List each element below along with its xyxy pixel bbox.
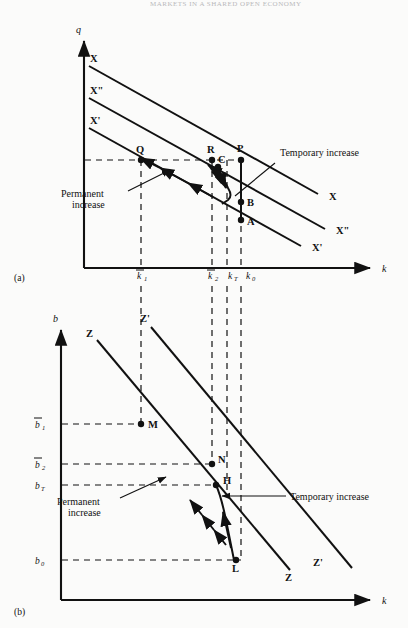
economics-phase-diagram: q k X X" X' X X" X' Q R C P B A Temporar… bbox=[0, 0, 408, 628]
panel-b-curve-Z2 bbox=[151, 327, 352, 568]
panel-b-tick-bT: b T bbox=[35, 481, 45, 492]
panel-b-tick-b0-sub: 0 bbox=[41, 560, 45, 567]
panel-b-y-axis-label: b bbox=[53, 313, 58, 324]
panel-a-curve-label-right-X1: X' bbox=[312, 242, 323, 253]
panel-b-label: (b) bbox=[14, 607, 25, 618]
panel-a-tick-k2-base: k bbox=[208, 271, 213, 281]
panel-a-annotation-permanent-line1: Permanent bbox=[61, 188, 104, 199]
panel-a-arrow-low-1 bbox=[188, 183, 213, 197]
panel-a-tick-k0-base: k bbox=[246, 271, 251, 281]
panel-b-tick-b2: b 2 bbox=[34, 458, 46, 471]
panel-a-leader-permanent bbox=[128, 170, 170, 191]
panel-b-annotation-temporary: Temporary increase bbox=[290, 491, 370, 502]
panel-a-label-R: R bbox=[207, 144, 215, 155]
panel-a-point-A bbox=[238, 217, 244, 223]
panel-a-curve-X2 bbox=[89, 98, 325, 229]
panel-b-curve-label-left-Z2: Z' bbox=[140, 313, 150, 324]
panel-a-label: (a) bbox=[14, 273, 25, 284]
panel-b-leader-permanent bbox=[120, 477, 166, 498]
panel-a-tick-k1-sub: 1 bbox=[144, 275, 147, 282]
panel-b-label-N: N bbox=[218, 454, 226, 465]
panel-a-tick-kT: k T bbox=[228, 271, 238, 282]
panel-b-tick-b1-base: b bbox=[35, 420, 40, 430]
panel-b-curve-label-right-Z2: Z' bbox=[313, 557, 323, 568]
panel-b-arrow-3 bbox=[190, 500, 202, 515]
panel-a-curve-label-right-X2: X" bbox=[336, 225, 349, 236]
panel-b-arrow-1 bbox=[214, 530, 226, 545]
panel-b-point-N bbox=[209, 461, 215, 467]
panel-a-label-P: P bbox=[237, 143, 244, 154]
panel-a-tick-k1-base: k bbox=[137, 271, 142, 281]
panel-b-tick-b1-sub: 1 bbox=[42, 424, 45, 431]
panel-a-curve-label-right-X: X bbox=[329, 191, 337, 202]
panel-b-x-axis-label: k bbox=[382, 595, 387, 606]
panel-a-point-B bbox=[238, 199, 244, 205]
panel-b-curve-Z bbox=[97, 340, 290, 570]
panel-a-label-C: C bbox=[218, 154, 226, 165]
panel-a-label-B: B bbox=[247, 197, 254, 208]
panel-a-label-A: A bbox=[247, 216, 255, 227]
panel-a-tick-k2-sub: 2 bbox=[215, 275, 219, 282]
panel-a-y-axis-label: q bbox=[76, 24, 81, 35]
panel-a-point-Q bbox=[138, 157, 144, 163]
panel-b-label-H: H bbox=[223, 475, 231, 486]
panel-a-point-P bbox=[238, 157, 244, 163]
panel-a-x-axis-label: k bbox=[382, 263, 387, 274]
panel-b-point-M bbox=[138, 421, 144, 427]
panel-b-tick-b2-sub: 2 bbox=[42, 464, 46, 471]
panel-a-arrow-low-2 bbox=[160, 168, 188, 183]
panel-a-tick-kT-sub: T bbox=[234, 275, 238, 282]
panel-b-tick-b0: b 0 bbox=[35, 556, 45, 567]
panel-a-label-Q: Q bbox=[136, 144, 144, 155]
panel-a-tick-k1: k 1 bbox=[136, 270, 147, 282]
panel-b-label-L: L bbox=[232, 563, 239, 574]
panel-b-point-H bbox=[213, 482, 219, 488]
panel-a-group: q k X X" X' X X" X' Q R C P B A Temporar… bbox=[14, 24, 387, 284]
panel-b-tick-b1: b 1 bbox=[34, 418, 45, 431]
panel-a-curve-label-left-X2: X" bbox=[90, 85, 103, 96]
panel-b-group: b k Z Z' Z' Z M N H L Temporary increase… bbox=[14, 286, 387, 618]
panel-a-curve-label-left-X1: X' bbox=[90, 115, 101, 126]
panel-a-tick-k2: k 2 bbox=[207, 270, 219, 282]
panel-a-point-R bbox=[209, 157, 215, 163]
panel-b-arrow-2 bbox=[202, 515, 214, 530]
panel-b-annotation-permanent-line2: increase bbox=[68, 507, 101, 518]
panel-a-annotation-temporary: Temporary increase bbox=[280, 147, 360, 158]
panel-a-tick-k0: k 0 bbox=[246, 271, 256, 282]
panel-b-tick-b0-base: b bbox=[35, 556, 40, 566]
panel-b-curve-label-left-Z: Z bbox=[86, 328, 93, 339]
panel-a-curve-label-left-X: X bbox=[90, 53, 98, 64]
panel-b-tick-bT-sub: T bbox=[41, 485, 45, 492]
panel-b-tick-b2-base: b bbox=[35, 460, 40, 470]
figure-page: MARKETS IN A SHARED OPEN ECONOMY bbox=[0, 0, 408, 628]
panel-a-tick-k0-sub: 0 bbox=[252, 275, 256, 282]
panel-b-curve-label-right-Z: Z bbox=[285, 572, 292, 583]
panel-b-tick-bT-base: b bbox=[35, 481, 40, 491]
panel-b-annotation-permanent-line1: Permanent bbox=[57, 496, 100, 507]
panel-b-label-M: M bbox=[148, 419, 158, 430]
panel-a-tick-kT-base: k bbox=[228, 271, 233, 281]
panel-a-annotation-permanent-line2: increase bbox=[72, 199, 105, 210]
panel-a-curve-X bbox=[89, 66, 318, 194]
